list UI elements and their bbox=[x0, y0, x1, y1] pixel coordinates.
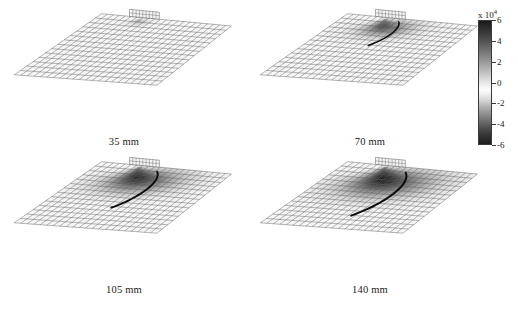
colorbar-tick bbox=[492, 83, 496, 84]
surface-panel: 70 mm bbox=[252, 2, 488, 154]
surface-mesh bbox=[252, 150, 488, 280]
colorbar-tick bbox=[492, 20, 496, 21]
panel-label: 105 mm bbox=[6, 284, 242, 295]
surface-panel: 105 mm bbox=[6, 150, 242, 302]
colorbar-tick bbox=[492, 62, 496, 63]
colorbar-tick-label: -4 bbox=[497, 119, 505, 129]
surface-panel: 35 mm bbox=[6, 2, 242, 154]
colorbar-tick bbox=[492, 124, 496, 125]
colorbar-gradient bbox=[478, 20, 492, 145]
colorbar-tick bbox=[492, 103, 496, 104]
surface-panel: 140 mm bbox=[252, 150, 488, 302]
surface-mesh bbox=[6, 150, 242, 280]
colorbar-tick-label: -6 bbox=[497, 140, 505, 150]
colorbar-tick-label: 2 bbox=[497, 57, 502, 67]
colorbar-tick-label: 4 bbox=[497, 36, 502, 46]
colorbar-tick bbox=[492, 41, 496, 42]
colorbar-tick-label: -2 bbox=[497, 98, 505, 108]
colorbar-tick-label: 6 bbox=[497, 15, 502, 25]
colorbar-exponent-label: x 104 bbox=[478, 8, 497, 20]
panel-label: 35 mm bbox=[6, 136, 242, 147]
surface-mesh bbox=[6, 2, 242, 132]
figure-canvas: 35 mm70 mm105 mm140 mm x 104 6420-2-4-6 bbox=[0, 0, 518, 312]
surface-mesh bbox=[252, 2, 488, 132]
panel-label: 70 mm bbox=[252, 136, 488, 147]
colorbar-tick-label: 0 bbox=[497, 78, 502, 88]
colorbar: x 104 6420-2-4-6 bbox=[478, 20, 518, 145]
panel-label: 140 mm bbox=[252, 284, 488, 295]
colorbar-tick bbox=[492, 145, 496, 146]
